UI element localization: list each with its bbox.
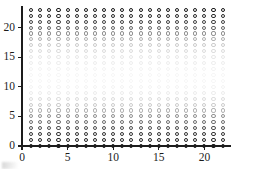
scatter-point xyxy=(148,26,152,30)
scatter-point xyxy=(29,37,33,41)
scatter-point xyxy=(84,37,88,41)
scatter-point xyxy=(166,49,170,53)
scatter-point xyxy=(102,114,106,118)
scatter-point xyxy=(29,138,33,142)
scatter-point xyxy=(193,8,197,12)
scatter-point xyxy=(211,67,215,71)
scatter-point xyxy=(75,37,79,41)
scatter-point xyxy=(148,120,152,124)
scatter-point xyxy=(75,91,79,95)
scatter-point xyxy=(38,114,42,118)
scatter-point xyxy=(193,120,197,124)
scatter-point xyxy=(211,26,215,30)
scatter-point xyxy=(56,55,60,59)
scatter-point xyxy=(221,20,225,24)
scatter-point xyxy=(175,49,179,53)
scatter-point xyxy=(93,108,97,112)
scatter-point xyxy=(148,37,152,41)
scatter-point xyxy=(38,31,42,35)
scatter-point xyxy=(102,79,106,83)
scatter-point xyxy=(129,37,133,41)
scatter-point xyxy=(139,49,143,53)
scatter-point xyxy=(75,114,79,118)
scatter-point xyxy=(102,103,106,107)
scatter-point xyxy=(129,79,133,83)
scatter-point xyxy=(84,85,88,89)
x-tick-mark xyxy=(67,146,68,150)
scatter-point xyxy=(56,31,60,35)
y-tick-mark xyxy=(18,116,22,117)
scatter-point xyxy=(166,103,170,107)
scatter-point xyxy=(47,61,51,65)
scatter-point xyxy=(93,8,97,12)
scatter-point xyxy=(120,97,124,101)
scatter-point xyxy=(139,67,143,71)
scatter-point xyxy=(29,114,33,118)
scatter-point xyxy=(66,108,70,112)
scatter-point xyxy=(29,26,33,30)
scatter-point xyxy=(120,132,124,136)
scatter-point xyxy=(56,126,60,130)
scatter-point xyxy=(120,8,124,12)
scatter-point xyxy=(84,31,88,35)
scatter-point xyxy=(193,97,197,101)
x-tick-label: 15 xyxy=(153,152,165,164)
scatter-point xyxy=(175,26,179,30)
scatter-point xyxy=(184,55,188,59)
scatter-point xyxy=(111,85,115,89)
scatter-point xyxy=(84,132,88,136)
scatter-point xyxy=(56,132,60,136)
scatter-point xyxy=(193,91,197,95)
scatter-point xyxy=(29,49,33,53)
scatter-point xyxy=(139,55,143,59)
scatter-point xyxy=(202,8,206,12)
scatter-point xyxy=(129,114,133,118)
scatter-point xyxy=(29,132,33,136)
scatter-point xyxy=(29,55,33,59)
scatter-point xyxy=(111,37,115,41)
scatter-point xyxy=(184,14,188,18)
scatter-point xyxy=(66,31,70,35)
scatter-point xyxy=(47,31,51,35)
scatter-point xyxy=(175,8,179,12)
scatter-point xyxy=(120,73,124,77)
scatter-point xyxy=(184,31,188,35)
scatter-point xyxy=(111,8,115,12)
scatter-point xyxy=(175,138,179,142)
scatter-point xyxy=(111,126,115,130)
scatter-point xyxy=(120,67,124,71)
scatter-point xyxy=(129,97,133,101)
scatter-point xyxy=(139,103,143,107)
scatter-point xyxy=(193,132,197,136)
scatter-point xyxy=(148,132,152,136)
scatter-point xyxy=(47,132,51,136)
scatter-point xyxy=(84,103,88,107)
scatter-point xyxy=(221,85,225,89)
scatter-point xyxy=(102,20,106,24)
scatter-point xyxy=(166,67,170,71)
scatter-point xyxy=(202,79,206,83)
scatter-point xyxy=(139,114,143,118)
x-tick-label: 10 xyxy=(107,152,119,164)
scatter-point xyxy=(75,85,79,89)
scatter-point xyxy=(84,49,88,53)
scatter-point xyxy=(148,14,152,18)
scatter-point xyxy=(211,91,215,95)
scatter-point xyxy=(202,85,206,89)
scatter-point xyxy=(221,120,225,124)
scatter-point xyxy=(175,55,179,59)
scatter-point xyxy=(102,37,106,41)
scatter-point xyxy=(148,108,152,112)
scatter-point xyxy=(202,97,206,101)
scatter-point xyxy=(111,20,115,24)
scatter-point xyxy=(84,126,88,130)
scatter-point xyxy=(84,55,88,59)
scatter-point xyxy=(202,120,206,124)
scatter-point xyxy=(175,37,179,41)
scatter-point xyxy=(166,120,170,124)
scatter-point xyxy=(56,8,60,12)
scatter-point xyxy=(29,120,33,124)
scatter-point xyxy=(38,132,42,136)
scatter-point xyxy=(221,26,225,30)
scatter-point xyxy=(75,49,79,53)
